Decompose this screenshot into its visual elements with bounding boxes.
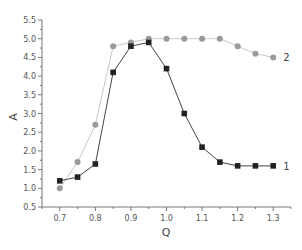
data-point-circle [235,43,241,49]
y-tick-label: 5.0 [23,35,36,44]
y-axis-title: A [7,113,20,121]
y-tick-label: 4.5 [23,53,36,62]
data-point-circle [92,122,98,128]
series-label-2: 2 [283,52,289,63]
data-point-square [93,161,99,167]
series-1: 1 [57,40,290,184]
y-tick-label: 2.5 [23,128,36,137]
data-point-square [146,40,152,46]
data-point-square [75,174,81,180]
x-axis-title: Q [162,226,171,239]
y-tick-label: 1.5 [23,166,36,175]
data-point-square [217,159,223,165]
y-tick-label: 0.5 [23,203,36,212]
data-point-square [128,43,134,49]
data-point-circle [270,54,276,60]
series-line [60,42,273,180]
chart-axes: 0.51.01.52.02.53.03.54.04.55.05.50.70.80… [23,16,291,223]
data-point-square [164,66,170,72]
y-tick-label: 3.5 [23,91,36,100]
x-tick-label: 0.7 [53,214,66,223]
chart-series: 21 [57,36,290,192]
y-tick-label: 2.0 [23,147,36,156]
x-tick-label: 0.8 [89,214,102,223]
data-point-square [181,111,187,117]
line-chart: 0.51.01.52.02.53.03.54.04.55.05.50.70.80… [0,0,302,250]
data-point-square [270,163,276,169]
data-point-square [235,163,241,169]
data-point-circle [217,36,223,42]
data-point-circle [75,159,81,165]
data-point-circle [181,36,187,42]
data-point-circle [164,36,170,42]
data-point-square [110,70,116,76]
y-tick-label: 4.0 [23,72,36,81]
data-point-circle [57,185,63,191]
x-tick-label: 1.1 [196,214,209,223]
y-tick-label: 5.5 [23,16,36,25]
y-tick-label: 1.0 [23,184,36,193]
x-tick-label: 1.0 [160,214,173,223]
data-point-circle [110,43,116,49]
x-tick-label: 1.2 [231,214,244,223]
x-tick-label: 1.3 [267,214,280,223]
x-tick-label: 0.9 [125,214,138,223]
data-point-circle [252,51,258,57]
data-point-square [57,178,63,184]
series-label-1: 1 [283,161,289,172]
data-point-circle [199,36,205,42]
y-tick-label: 3.0 [23,110,36,119]
data-point-square [253,163,259,169]
data-point-square [199,144,205,150]
